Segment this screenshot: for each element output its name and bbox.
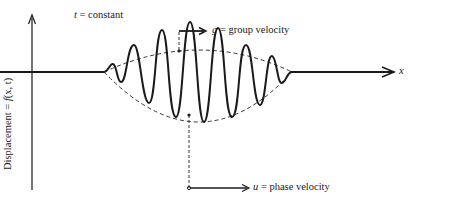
group-velocity-label: g = group velocity: [212, 24, 289, 35]
wave-packet: [104, 22, 292, 122]
phase-velocity-marker: [187, 113, 249, 191]
group-velocity-text: = group velocity: [217, 24, 289, 35]
wave-packet-diagram: t = constant Displacement = f(x, t) x g …: [0, 0, 461, 203]
phase-velocity-label: u = phase velocity: [253, 181, 330, 192]
phase-velocity-text: = phase velocity: [258, 181, 330, 192]
y-axis-label-func: f: [2, 98, 13, 101]
y-axis-label-args: (x, t): [2, 78, 13, 98]
y-axis-label-prefix: Displacement =: [2, 101, 13, 170]
y-axis-label: Displacement = f(x, t): [2, 78, 13, 170]
y-axis: [29, 15, 36, 190]
condition-label: t = constant: [74, 9, 123, 20]
x-axis-label: x: [399, 65, 404, 76]
group-velocity-marker: [177, 28, 206, 53]
condition-text: = constant: [77, 9, 123, 20]
